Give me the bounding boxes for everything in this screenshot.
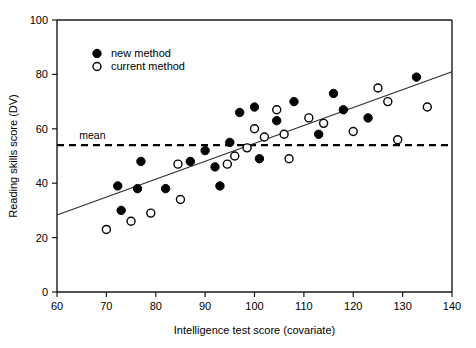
- data-point-new-method: [211, 163, 219, 171]
- axes-group: 02040608010060708090100110120130140: [30, 14, 462, 312]
- data-point-new-method: [117, 206, 125, 214]
- data-point-current-method: [251, 125, 259, 133]
- x-axis-tick-label: 120: [344, 300, 362, 312]
- data-point-new-method: [133, 184, 141, 192]
- data-point-new-method: [226, 138, 234, 146]
- data-point-new-method: [250, 103, 258, 111]
- mean-line-label: mean: [79, 129, 105, 141]
- data-point-current-method: [260, 133, 268, 141]
- y-axis-tick-label: 60: [36, 123, 48, 135]
- x-axis-tick-label: 80: [150, 300, 162, 312]
- legend-marker-new-method: [93, 49, 101, 57]
- data-point-current-method: [127, 217, 135, 225]
- y-axis-tick-label: 20: [36, 232, 48, 244]
- legend-label-new-method: new method: [111, 47, 171, 59]
- data-point-new-method: [235, 108, 243, 116]
- legend-marker-current-method: [93, 63, 101, 71]
- data-point-current-method: [305, 114, 313, 122]
- data-point-current-method: [423, 103, 431, 111]
- data-point-new-method: [314, 130, 322, 138]
- data-point-current-method: [174, 160, 182, 168]
- y-axis-tick-label: 40: [36, 177, 48, 189]
- data-point-current-method: [394, 136, 402, 144]
- x-axis-tick-label: 130: [393, 300, 411, 312]
- chart-canvas: 02040608010060708090100110120130140 mean…: [0, 0, 476, 348]
- data-point-current-method: [243, 144, 251, 152]
- data-point-new-method: [339, 106, 347, 114]
- y-axis-title: Reading skills score (DV): [7, 94, 19, 217]
- x-axis-tick-label: 60: [51, 300, 63, 312]
- data-point-new-method: [290, 97, 298, 105]
- data-point-current-method: [273, 106, 281, 114]
- x-axis-tick-label: 110: [295, 300, 313, 312]
- x-axis-tick-label: 90: [199, 300, 211, 312]
- scatter-plot-figure: 02040608010060708090100110120130140 mean…: [0, 0, 476, 348]
- data-point-current-method: [176, 196, 184, 204]
- data-point-new-method: [273, 116, 281, 124]
- data-point-current-method: [280, 130, 288, 138]
- data-point-current-method: [147, 209, 155, 217]
- data-point-new-method: [364, 114, 372, 122]
- trend-line-group: [57, 72, 452, 215]
- data-point-new-method: [201, 146, 209, 154]
- data-point-new-method: [412, 73, 420, 81]
- y-axis-tick-label: 80: [36, 68, 48, 80]
- data-point-new-method: [137, 157, 145, 165]
- x-axis-title: Intelligence test score (covariate): [174, 324, 335, 336]
- x-axis-tick-label: 100: [245, 300, 263, 312]
- x-axis-tick-label: 70: [100, 300, 112, 312]
- data-point-new-method: [114, 182, 122, 190]
- data-point-current-method: [374, 84, 382, 92]
- data-point-new-method: [255, 155, 263, 163]
- data-point-current-method: [102, 225, 110, 233]
- legend-label-current-method: current method: [111, 60, 185, 72]
- data-point-new-method: [329, 89, 337, 97]
- data-point-new-method: [186, 157, 194, 165]
- data-point-current-method: [320, 119, 328, 127]
- x-axis-tick-label: 140: [443, 300, 461, 312]
- data-point-current-method: [285, 155, 293, 163]
- data-point-new-method: [216, 182, 224, 190]
- data-point-current-method: [223, 160, 231, 168]
- y-axis-tick-label: 100: [30, 14, 48, 26]
- regression-line: [57, 72, 452, 215]
- y-axis-tick-label: 0: [42, 286, 48, 298]
- data-point-new-method: [161, 184, 169, 192]
- data-point-current-method: [231, 152, 239, 160]
- data-point-current-method: [349, 128, 357, 136]
- data-point-current-method: [384, 98, 392, 106]
- chart-legend: new methodcurrent method: [93, 47, 185, 72]
